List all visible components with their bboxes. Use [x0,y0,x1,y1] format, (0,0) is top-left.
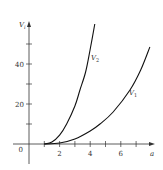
y-axis-arrow-icon [27,21,31,27]
series-label-sub: 1 [134,92,137,98]
x-axis-label: a [150,150,154,158]
series-label: V2 [91,54,99,63]
x-tick-label: 4 [88,150,93,158]
series-label-sub: 2 [96,57,99,63]
y-axis-label: Vi [19,21,26,30]
y-tick-label: 40 [15,61,24,69]
curve-v2 [44,24,94,144]
curves [44,24,150,144]
origin-label: 0 [19,146,23,154]
x-axis-arrow-icon [149,142,155,146]
x-tick-label: 6 [119,150,124,158]
y-axis-label-sub: i [24,24,26,30]
x-tick-label: 2 [57,150,61,158]
y-tick-label: 20 [15,101,24,109]
labels: 24620400aViV2V1 [15,21,154,158]
series-label: V1 [129,89,137,98]
chart: 24620400aViV2V1 [0,0,163,170]
